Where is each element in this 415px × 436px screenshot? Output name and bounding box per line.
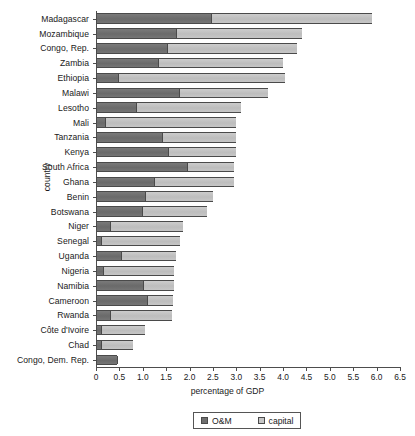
bar-segment-om[interactable] [96, 103, 136, 112]
bar-segment-om[interactable] [96, 178, 154, 187]
bar-segment-om[interactable] [96, 356, 117, 365]
bar-row: Senegal [96, 234, 400, 250]
bar-segment-om[interactable] [96, 296, 147, 305]
bar-segment-om[interactable] [96, 252, 121, 261]
bar-row: Congo, Dem. Rep. [96, 352, 400, 368]
bar-segment-capital[interactable] [168, 148, 236, 157]
bar-segment-capital[interactable] [176, 29, 301, 38]
bar-segment-capital[interactable] [110, 311, 172, 320]
bar-segment-om[interactable] [96, 281, 143, 290]
stacked-bar[interactable] [96, 295, 173, 306]
bar-segment-capital[interactable] [162, 133, 236, 142]
bar-segment-capital[interactable] [187, 163, 234, 172]
bar-segment-om[interactable] [96, 74, 118, 83]
bar-segment-om[interactable] [96, 148, 168, 157]
bar-segment-capital[interactable] [105, 118, 236, 127]
stacked-bar[interactable] [96, 310, 172, 321]
stacked-bar[interactable] [96, 88, 268, 99]
stacked-bar[interactable] [96, 102, 241, 113]
category-label: Rwanda [57, 310, 89, 320]
stacked-bar[interactable] [96, 280, 174, 291]
bar-row: Zambia [96, 56, 400, 72]
stacked-bar[interactable] [96, 191, 213, 202]
bar-segment-capital[interactable] [110, 222, 183, 231]
bar-segment-capital[interactable] [101, 341, 134, 350]
bar-row: Ghana [96, 174, 400, 190]
category-label: Cameroon [48, 296, 89, 306]
x-axis-tick-label: 4.5 [301, 372, 313, 382]
category-label: Kenya [64, 147, 89, 157]
bar-row: Nigeria [96, 263, 400, 279]
bar-row: Chad [96, 337, 400, 353]
bar-segment-capital[interactable] [167, 44, 297, 53]
stacked-bar[interactable] [96, 132, 236, 143]
bar-row: Mozambique [96, 26, 400, 42]
bar-segment-capital[interactable] [154, 178, 234, 187]
x-axis-tick [283, 367, 284, 371]
stacked-bar[interactable] [96, 251, 176, 262]
stacked-bar[interactable] [96, 236, 180, 247]
stacked-bar[interactable] [96, 73, 285, 84]
bar-row: Botswana [96, 204, 400, 220]
bar-segment-capital[interactable] [118, 74, 285, 83]
category-label: Lesotho [58, 103, 89, 113]
stacked-bar[interactable] [96, 58, 283, 69]
bar-segment-om[interactable] [96, 59, 158, 68]
bar-segment-om[interactable] [96, 207, 142, 216]
stacked-bar[interactable] [96, 43, 297, 54]
stacked-bar[interactable] [96, 177, 234, 188]
x-axis-tick [143, 367, 144, 371]
bar-segment-capital[interactable] [147, 296, 173, 305]
stacked-bar[interactable] [96, 147, 236, 158]
stacked-bar[interactable] [96, 13, 372, 24]
stacked-bar[interactable] [96, 162, 234, 173]
bar-segment-capital[interactable] [211, 14, 372, 23]
category-label: Mali [73, 118, 89, 128]
bar-segment-capital[interactable] [179, 89, 268, 98]
bar-segment-om[interactable] [96, 267, 103, 276]
bar-segment-om[interactable] [96, 89, 179, 98]
bar-segment-om[interactable] [96, 14, 211, 23]
bar-segment-capital[interactable] [145, 192, 213, 201]
bar-row: Uganda [96, 248, 400, 264]
x-axis-tick [306, 367, 307, 371]
stacked-bar-chart: country MadagascarMozambiqueCongo, Rep.Z… [0, 0, 415, 436]
capital-swatch-icon [258, 417, 265, 424]
x-axis-tick [260, 367, 261, 371]
bar-row: Kenya [96, 145, 400, 161]
legend-label-om: O&M [212, 416, 232, 426]
bar-row: Rwanda [96, 308, 400, 324]
stacked-bar[interactable] [96, 117, 236, 128]
bar-segment-om[interactable] [96, 163, 187, 172]
bar-segment-capital[interactable] [101, 326, 145, 335]
x-axis-tick-label: 5.5 [347, 372, 359, 382]
bar-segment-om[interactable] [96, 29, 176, 38]
bar-segment-om[interactable] [96, 222, 110, 231]
stacked-bar[interactable] [96, 266, 174, 277]
bar-segment-capital[interactable] [101, 237, 181, 246]
bar-segment-om[interactable] [96, 192, 145, 201]
bar-segment-om[interactable] [96, 133, 162, 142]
plot-area: MadagascarMozambiqueCongo, Rep.ZambiaEth… [96, 11, 400, 367]
bar-segment-capital[interactable] [143, 281, 174, 290]
bar-segment-capital[interactable] [103, 267, 174, 276]
bar-segment-capital[interactable] [136, 103, 241, 112]
category-label: Ghana [63, 177, 89, 187]
stacked-bar[interactable] [96, 340, 133, 351]
bar-segment-om[interactable] [96, 311, 110, 320]
stacked-bar[interactable] [96, 325, 145, 336]
stacked-bar[interactable] [96, 221, 183, 232]
stacked-bar[interactable] [96, 206, 207, 217]
category-label: Ethiopia [58, 73, 89, 83]
bar-segment-capital[interactable] [121, 252, 176, 261]
bar-segment-om[interactable] [96, 118, 105, 127]
x-axis-tick-label: 0 [94, 372, 99, 382]
bar-segment-capital[interactable] [142, 207, 207, 216]
x-axis-tick [353, 367, 354, 371]
bar-segment-om[interactable] [96, 44, 167, 53]
stacked-bar[interactable] [96, 355, 117, 366]
bar-segment-capital[interactable] [117, 356, 118, 365]
bar-segment-capital[interactable] [158, 59, 283, 68]
stacked-bar[interactable] [96, 28, 302, 39]
x-axis-tick-label: 3.0 [230, 372, 242, 382]
